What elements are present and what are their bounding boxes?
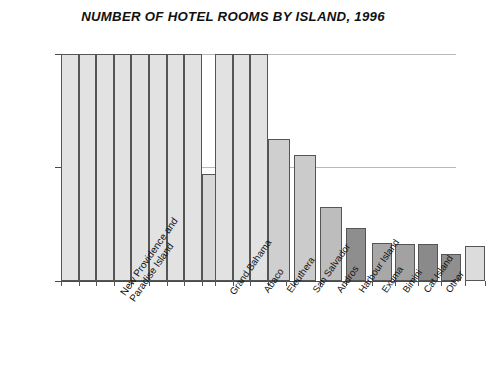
x-tick-mark bbox=[441, 281, 442, 286]
x-tick-mark bbox=[96, 281, 97, 286]
x-tick-mark bbox=[215, 281, 216, 286]
x-tick-mark bbox=[114, 281, 115, 286]
x-tick-mark bbox=[202, 281, 203, 286]
x-tick-mark bbox=[167, 281, 168, 286]
x-tick-mark bbox=[61, 281, 62, 286]
x-tick-mark bbox=[465, 281, 466, 286]
x-tick-mark bbox=[250, 281, 251, 286]
x-tick-mark bbox=[184, 281, 185, 286]
x-axis-label-new-providence-and-paradise-island: New Providence and Paradise Island bbox=[118, 194, 204, 303]
x-tick-mark bbox=[79, 281, 80, 286]
x-tick-mark bbox=[485, 281, 486, 286]
